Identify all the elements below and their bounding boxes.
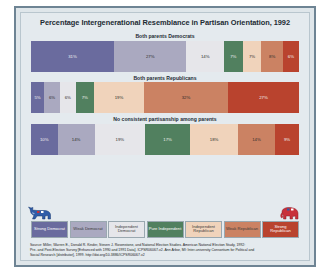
bar-group-0: Both parents Democrats 31% 27% 14% 7% 7%… [31,33,299,72]
bar-segment: 14% [58,124,95,155]
stacked-bar: 10% 14% 19% 17% 18% 14% 9% [31,124,299,155]
bar-group-label: No consistent partisanship among parents [31,116,299,122]
legend-item-independent-democrat[interactable]: Independent Democrat [108,221,145,238]
bar-segment: 7% [243,41,262,72]
bar-segment: 18% [190,124,238,155]
bar-segment: 8% [261,41,282,72]
legend: Strong Democrat Weak Democrat Independen… [21,221,309,238]
bar-segment: 6% [283,41,299,72]
legend-item-weak-democrat[interactable]: Weak Democrat [70,221,107,238]
bar-segment: 5% [31,82,44,113]
legend-item-weak-republican[interactable]: Weak Republican [224,221,261,238]
bar-segment: 32% [144,82,228,113]
legend-item-pure-independent[interactable]: Pure Independent [147,221,184,238]
bar-segment: 9% [275,124,299,155]
bar-segment: 10% [31,124,58,155]
bar-group-1: Both parents Republicans 5% 6% 6% 7% 19%… [31,75,299,114]
bar-segment: 14% [186,41,224,72]
bar-segment: 6% [44,82,60,113]
stacked-bar: 31% 27% 14% 7% 7% 8% 6% [31,41,299,72]
legend-item-independent-republican[interactable]: Independent Republican [185,221,222,238]
bar-segment: 19% [95,124,145,155]
democratic-donkey-icon [27,206,53,221]
bar-segment: 27% [114,41,186,72]
legend-items: Strong Democrat Weak Democrat Independen… [31,221,299,238]
chart-figure: Percentage Intergenerational Resemblance… [14,6,316,267]
bar-group-2: No consistent partisanship among parents… [31,116,299,155]
source-citation: Source: Miller, Warren E., Donald R. Kin… [21,238,309,260]
bar-segment: 31% [31,41,114,72]
stacked-bar: 5% 6% 6% 7% 19% 32% 27% [31,82,299,113]
bar-segment: 7% [76,82,94,113]
bar-group-label: Both parents Republicans [31,75,299,81]
bar-group-label: Both parents Democrats [31,33,299,39]
bar-segment: 17% [145,124,190,155]
bar-segment: 19% [94,82,144,113]
legend-item-strong-democrat[interactable]: Strong Democrat [31,221,68,238]
bar-segment: 14% [238,124,275,155]
republican-elephant-icon [277,206,303,221]
chart-plot-area: Both parents Democrats 31% 27% 14% 7% 7%… [21,27,309,219]
chart-title: Percentage Intergenerational Resemblance… [21,13,309,27]
source-line-3: Social Research [distributor], 1999. htt… [30,253,300,258]
bar-segment: 6% [60,82,76,113]
bar-segment: 27% [228,82,299,113]
legend-item-strong-republican[interactable]: Strong Republican [262,221,299,238]
chart-inner-frame: Percentage Intergenerational Resemblance… [20,12,310,261]
bar-segment: 7% [224,41,243,72]
